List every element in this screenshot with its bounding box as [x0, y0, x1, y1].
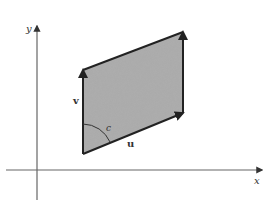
x-axis-label: x: [254, 175, 260, 186]
angle-label: c: [106, 123, 111, 133]
y-axis-label: y: [25, 23, 32, 34]
diagram-canvas: x y c u v: [0, 0, 274, 210]
vector-u-label: u: [127, 138, 134, 149]
vector-v-label: v: [72, 95, 80, 106]
